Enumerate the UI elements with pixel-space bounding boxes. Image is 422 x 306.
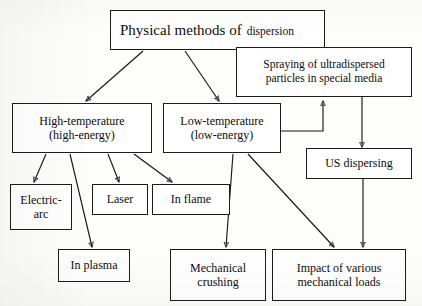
node-spraying-label: Spraying of ultradispersed particles in … <box>260 58 387 85</box>
node-mechanical-crushing-label: Mechanical crushing <box>187 261 249 289</box>
node-root-label: Physical methods ofdispersion <box>120 21 294 40</box>
node-us-dispersing-label: US dispersing <box>322 156 396 170</box>
edge-root-to-high-temp <box>86 51 143 101</box>
edge-high-temp-to-laser <box>108 154 119 182</box>
node-spraying-ultradispersed[interactable]: Spraying of ultradispersed particles in … <box>236 47 412 97</box>
node-impact-mechanical-loads-label: Impact of various mechanical loads <box>294 261 385 289</box>
node-electric-arc[interactable]: Electric- arc <box>10 184 72 230</box>
flowchart-diagram: Physical methods ofdispersion Spraying o… <box>0 0 422 306</box>
node-root-label-primary: Physical methods of <box>120 22 242 38</box>
node-high-temperature-label: High-temperature (high-energy) <box>36 114 127 142</box>
node-root-label-secondary: dispersion <box>247 25 294 37</box>
node-low-temperature-label: Low-temperature (low-energy) <box>177 114 266 142</box>
edge-root-to-low-temp <box>185 51 219 101</box>
node-root-physical-methods[interactable]: Physical methods ofdispersion <box>110 10 325 50</box>
node-low-temperature[interactable]: Low-temperature (low-energy) <box>163 103 281 153</box>
node-us-dispersing[interactable]: US dispersing <box>306 148 412 179</box>
edge-low-temp-to-spraying <box>281 101 323 131</box>
node-high-temperature[interactable]: High-temperature (high-energy) <box>12 103 152 153</box>
node-in-plasma[interactable]: In plasma <box>58 249 130 282</box>
node-laser-label: Laser <box>104 192 137 206</box>
node-in-plasma-label: In plasma <box>68 258 121 272</box>
edge-high-temp-to-electric-arc <box>34 154 46 182</box>
node-laser[interactable]: Laser <box>92 184 148 215</box>
node-mechanical-crushing[interactable]: Mechanical crushing <box>170 249 266 301</box>
edge-high-temp-to-in-flame <box>134 154 172 182</box>
node-in-flame[interactable]: In flame <box>152 184 230 215</box>
node-in-flame-label: In flame <box>168 192 214 206</box>
edge-high-temp-to-in-plasma <box>70 154 92 247</box>
node-impact-mechanical-loads[interactable]: Impact of various mechanical loads <box>272 249 406 301</box>
node-electric-arc-label: Electric- arc <box>17 193 64 221</box>
